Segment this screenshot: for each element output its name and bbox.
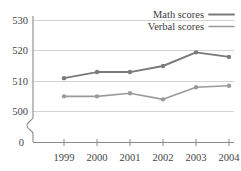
data-point-verbal-2001 <box>128 91 132 95</box>
y-tick-label-520: 520 <box>12 45 28 56</box>
data-point-math-2003 <box>194 50 198 54</box>
data-point-verbal-2002 <box>161 97 165 101</box>
y-tick-label-0: 0 <box>19 137 24 148</box>
x-axis-labels: 1999 2000 2001 2002 2003 2004 <box>54 152 241 163</box>
line-chart: 530 520 510 500 0 1999 2000 2001 2002 20… <box>0 0 241 171</box>
series-line-verbal <box>64 86 229 100</box>
y-tick-label-530: 530 <box>12 15 28 26</box>
data-point-verbal-1999 <box>62 94 66 98</box>
data-point-math-2004 <box>227 55 231 59</box>
y-tick-label-500: 500 <box>12 106 28 117</box>
x-tick-label-1999: 1999 <box>54 152 75 163</box>
x-tick-label-2002: 2002 <box>153 152 174 163</box>
chart-canvas: 530 520 510 500 0 1999 2000 2001 2002 20… <box>0 0 241 171</box>
y-tick-label-510: 510 <box>12 76 28 87</box>
data-point-math-2000 <box>95 70 99 74</box>
x-tick-label-2004: 2004 <box>219 152 241 163</box>
series-line-math <box>64 52 229 78</box>
x-tick-label-2000: 2000 <box>87 152 108 163</box>
y-axis-labels: 530 520 510 500 0 <box>12 15 28 148</box>
data-point-math-1999 <box>62 76 66 80</box>
x-tick-label-2001: 2001 <box>120 152 141 163</box>
x-tick-label-2003: 2003 <box>186 152 207 163</box>
legend-label-verbal: Verbal scores <box>148 21 204 32</box>
data-point-verbal-2004 <box>227 84 231 88</box>
data-point-math-2002 <box>161 64 165 68</box>
legend-label-math: Math scores <box>153 9 204 20</box>
data-point-verbal-2003 <box>194 85 198 89</box>
data-point-verbal-2000 <box>95 94 99 98</box>
data-point-math-2001 <box>128 70 132 74</box>
data-series-layer <box>62 50 231 101</box>
